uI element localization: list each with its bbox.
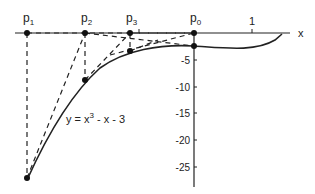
cubic-curve (27, 34, 282, 180)
label-p2: p2 (81, 11, 93, 27)
label-p0: p0 (190, 11, 202, 27)
svg-text:-25: -25 (176, 162, 191, 173)
svg-text:-15: -15 (176, 108, 191, 119)
curve-points (24, 43, 197, 181)
point-labels: p1 p2 p3 p0 (23, 11, 202, 27)
svg-text:-5: -5 (181, 55, 190, 66)
label-p3: p3 (126, 11, 138, 27)
x-tick-label: 1 (249, 15, 255, 27)
equation-label: y = x3 - x - 3 (66, 111, 125, 125)
svg-text:-20: -20 (176, 135, 191, 146)
label-p1: p1 (23, 11, 35, 27)
svg-text:-10: -10 (176, 82, 191, 93)
tangent-dashed-lines (27, 33, 194, 178)
newton-method-diagram: p1 p2 p3 p0 1 x -5 -10 -15 -20 -25 y = x… (0, 0, 315, 194)
y-tick-labels: -5 -10 -15 -20 -25 (176, 55, 191, 173)
vertical-dashed-lines (27, 33, 130, 178)
x-axis-label: x (298, 27, 304, 39)
